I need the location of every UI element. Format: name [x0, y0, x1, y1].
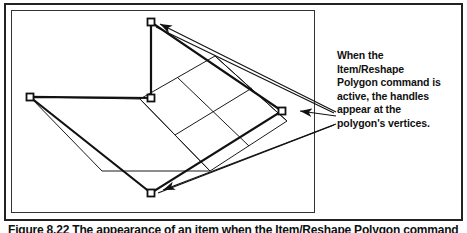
polygon-drawing: [12, 11, 315, 213]
annotation-line-1: When the: [337, 49, 463, 63]
annotation-text: When the Item/Reshape Polygon command is…: [337, 49, 463, 131]
annotation-line-3: Polygon command is: [337, 76, 463, 90]
figure-page: When the Item/Reshape Polygon command is…: [0, 0, 467, 233]
vertex-handle-top[interactable]: [148, 19, 155, 26]
vertex-handle-bottom[interactable]: [148, 190, 155, 197]
vertex-handle-middle[interactable]: [148, 95, 155, 102]
figure-caption-text: The appearance of an item when the Item/…: [72, 223, 458, 233]
vertex-handle-left[interactable]: [27, 94, 34, 101]
annotation-line-6: polygon's vertices.: [337, 117, 463, 131]
figure-caption-number: Figure 8.22: [8, 223, 69, 233]
annotation-line-5: appear at the: [337, 103, 463, 117]
figure-caption: Figure 8.22 The appearance of an item wh…: [8, 223, 467, 233]
annotation-line-2: Item/Reshape: [337, 63, 463, 77]
vertex-handles: [27, 19, 286, 197]
annotation-line-4: active, the handles: [337, 90, 463, 104]
reshape-polygon-outline: [30, 22, 282, 193]
vertex-handle-right[interactable]: [279, 108, 286, 115]
figure-canvas: [11, 10, 315, 213]
lower-grid-wing: [30, 97, 210, 171]
